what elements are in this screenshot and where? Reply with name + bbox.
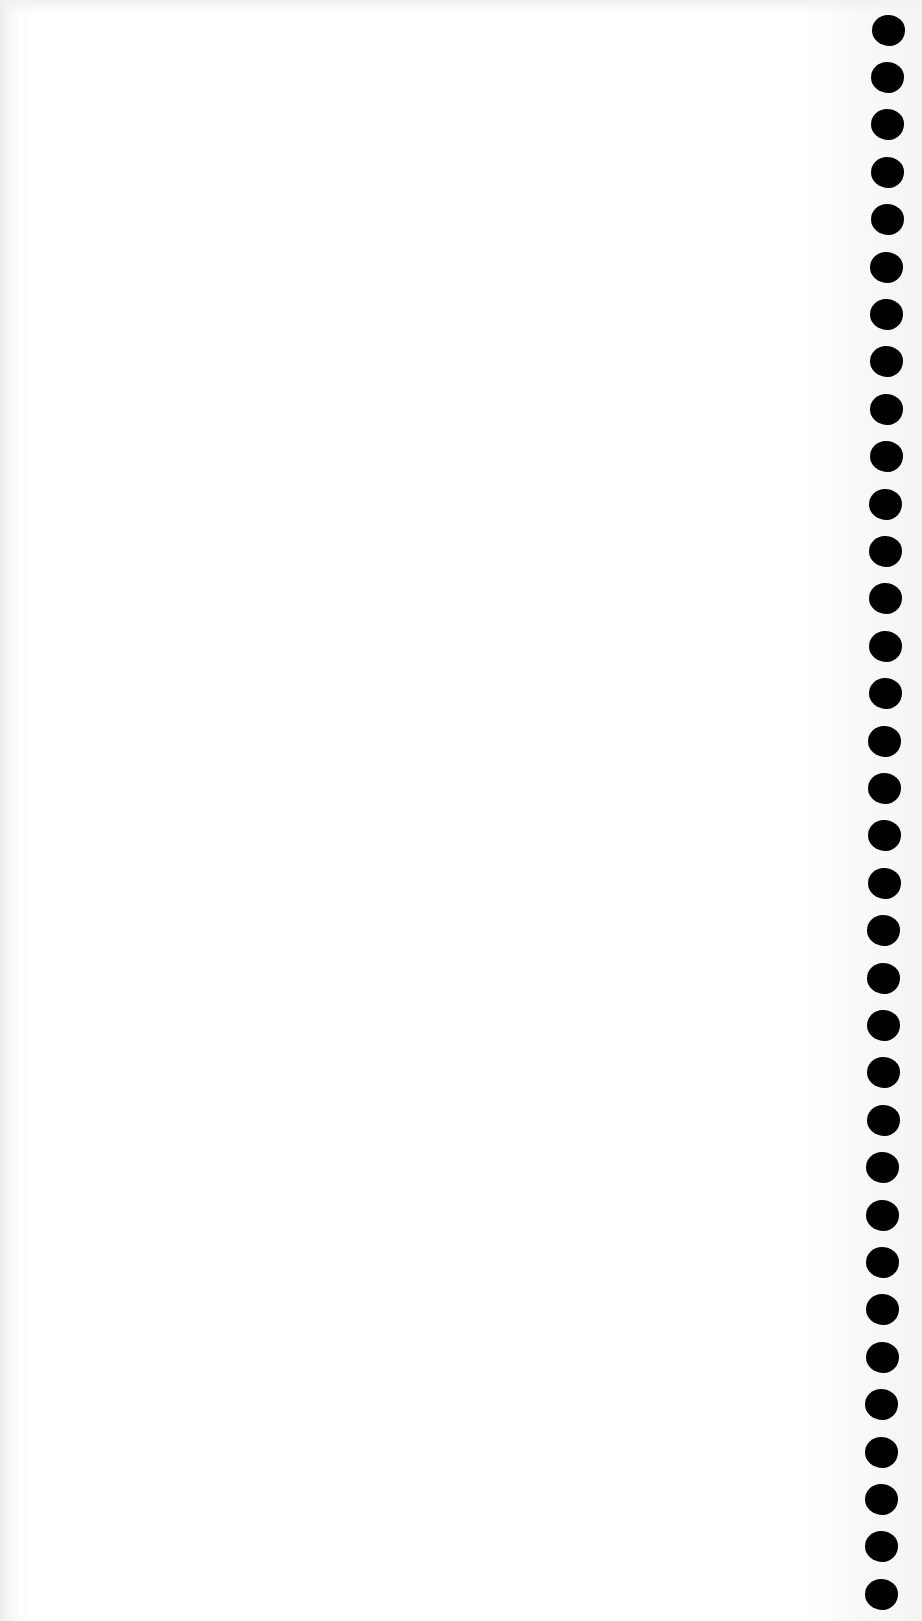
scanned-page xyxy=(0,0,922,1621)
binding-hole xyxy=(868,726,901,757)
binding-hole xyxy=(871,62,904,93)
binding-hole xyxy=(870,299,903,330)
binding-hole xyxy=(869,536,902,567)
binding-hole xyxy=(866,1247,899,1278)
binding-hole xyxy=(866,1342,899,1373)
binding-hole xyxy=(868,773,901,804)
binding-hole xyxy=(872,15,905,46)
page-top-shadow xyxy=(0,0,922,14)
binding-hole xyxy=(865,1389,898,1420)
binding-hole xyxy=(867,963,900,994)
binding-hole xyxy=(865,1579,898,1610)
binding-hole xyxy=(869,678,902,709)
binding-hole xyxy=(869,583,902,614)
binding-hole xyxy=(867,915,900,946)
page-body-blank xyxy=(40,40,800,1580)
binding-hole xyxy=(871,109,904,140)
binding-hole xyxy=(867,1105,900,1136)
binding-hole xyxy=(865,1531,898,1562)
binding-hole xyxy=(870,394,903,425)
binding-hole xyxy=(867,1010,900,1041)
binding-hole xyxy=(866,1200,899,1231)
binding-hole xyxy=(865,1484,898,1515)
binding-hole xyxy=(869,631,902,662)
binding-hole xyxy=(871,157,904,188)
spiral-binding-holes xyxy=(850,0,922,1621)
binding-hole xyxy=(870,346,903,377)
binding-hole xyxy=(866,1152,899,1183)
binding-hole xyxy=(870,252,903,283)
binding-hole xyxy=(869,489,902,520)
binding-hole xyxy=(867,1057,900,1088)
binding-hole xyxy=(871,204,904,235)
binding-hole xyxy=(866,1294,899,1325)
binding-hole xyxy=(865,1437,898,1468)
binding-hole xyxy=(868,820,901,851)
binding-hole xyxy=(868,868,901,899)
binding-hole xyxy=(870,441,903,472)
